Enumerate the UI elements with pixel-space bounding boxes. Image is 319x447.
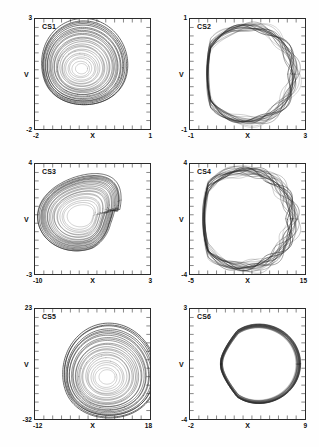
plot-frame: CS6 — [189, 308, 306, 420]
x-axis-min-label: -5 — [188, 278, 194, 285]
y-axis-title: V — [179, 71, 184, 78]
y-axis-max-label: 1 — [178, 15, 187, 22]
x-axis-min-label: -12 — [33, 423, 42, 430]
panel-title-cs6: CS6 — [197, 313, 211, 320]
attractor-trajectories — [190, 19, 305, 129]
x-axis-title: X — [90, 277, 95, 284]
x-axis-title: X — [245, 277, 250, 284]
x-axis-title: X — [245, 422, 250, 429]
x-axis-max-label: 1 — [148, 133, 152, 140]
y-axis-title: V — [24, 71, 29, 78]
attractor-trajectories — [35, 164, 150, 274]
y-axis-max-label: 3 — [178, 305, 187, 312]
x-axis-max-label: 3 — [148, 278, 152, 285]
y-axis-max-label: 23 — [23, 305, 32, 312]
plot-frame: CS2 — [189, 18, 306, 130]
x-axis-min-label: -2 — [188, 423, 194, 430]
panel-title-cs4: CS4 — [197, 168, 211, 175]
panel-title-cs1: CS1 — [42, 23, 56, 30]
y-axis-min-label: -3 — [21, 272, 32, 279]
x-axis-title: X — [245, 132, 250, 139]
y-axis-min-label: -4 — [176, 417, 187, 424]
y-axis-title: V — [24, 216, 29, 223]
plot-frame: CS3 — [34, 163, 151, 275]
y-axis-min-label: -1 — [176, 127, 187, 134]
y-axis-min-label: -32 — [21, 417, 32, 424]
x-axis-max-label: 3 — [303, 133, 307, 140]
x-axis-title: X — [90, 132, 95, 139]
plot-frame: CS5 — [34, 308, 151, 420]
plot-frame: CS1 — [34, 18, 151, 130]
attractor-trajectories — [35, 19, 150, 129]
y-axis-min-label: -2 — [21, 127, 32, 134]
x-axis-min-label: -2 — [33, 133, 39, 140]
y-axis-title: V — [179, 361, 184, 368]
plot-panel-cs3: CS34-3-103XV — [34, 163, 151, 275]
x-axis-min-label: -1 — [188, 133, 194, 140]
plot-panel-cs5: CS523-32-1218XV — [34, 308, 151, 420]
plot-panel-cs1: CS13-2-21XV — [34, 18, 151, 130]
y-axis-max-label: 3 — [23, 15, 32, 22]
y-axis-max-label: 4 — [23, 160, 32, 167]
attractor-trajectories — [190, 164, 305, 274]
attractor-trajectories — [190, 309, 305, 419]
plot-panel-cs4: CS44-4-515XV — [189, 163, 306, 275]
x-axis-max-label: 9 — [303, 423, 307, 430]
x-axis-max-label: 15 — [300, 278, 307, 285]
panel-title-cs5: CS5 — [42, 313, 56, 320]
y-axis-min-label: -4 — [176, 272, 187, 279]
plot-panel-cs6: CS63-4-29XV — [189, 308, 306, 420]
x-axis-max-label: 18 — [145, 423, 152, 430]
plot-panel-cs2: CS21-1-13XV — [189, 18, 306, 130]
y-axis-title: V — [179, 216, 184, 223]
x-axis-min-label: -10 — [33, 278, 42, 285]
panel-title-cs2: CS2 — [197, 23, 211, 30]
attractor-trajectories — [35, 309, 150, 419]
x-axis-title: X — [90, 422, 95, 429]
y-axis-max-label: 4 — [178, 160, 187, 167]
y-axis-title: V — [24, 361, 29, 368]
panel-title-cs3: CS3 — [42, 168, 56, 175]
figure-panel-grid: CS13-2-21XVCS21-1-13XVCS34-3-103XVCS44-4… — [0, 0, 319, 447]
plot-frame: CS4 — [189, 163, 306, 275]
